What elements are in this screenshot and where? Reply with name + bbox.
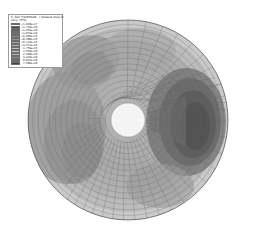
contour-legend[interactable]: S, S22 (*AVERAGE...) (Default style-1) (… (8, 14, 63, 68)
legend-entry[interactable]: -7.586e+16 (11, 62, 61, 65)
fea-viewport: S, S22 (*AVERAGE...) (Default style-1) (… (0, 0, 256, 242)
disk-center-hole (111, 103, 145, 137)
legend-value-label: -7.586e+16 (21, 62, 37, 65)
band-bottom-right (126, 164, 194, 208)
legend-entry-list: +1.018e+17+1.729e+16+1.254e+16+1.079e+16… (11, 23, 61, 66)
legend-color-swatch (11, 62, 20, 65)
